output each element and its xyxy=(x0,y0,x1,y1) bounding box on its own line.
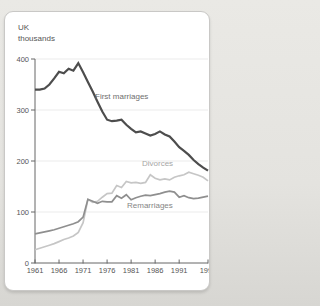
series-label-first-marriages: First marriages xyxy=(95,92,148,101)
x-tick-label: 1971 xyxy=(75,266,92,275)
page: { "page": { "background_top": "#eae9e5",… xyxy=(0,0,223,306)
x-tick-label: 1981 xyxy=(123,266,140,275)
x-tick-label: 1986 xyxy=(147,266,164,275)
y-tick-label: 300 xyxy=(16,106,29,115)
x-tick-label: 1976 xyxy=(99,266,116,275)
y-tick-label: 400 xyxy=(16,55,29,64)
series-label-remarriages: Remarriages xyxy=(127,201,173,210)
series-line-divorces xyxy=(35,172,208,250)
y-tick-label: 200 xyxy=(16,157,29,166)
y-tick-label: 100 xyxy=(16,208,29,217)
line-chart: 0100200300400196119661971197619811986199… xyxy=(5,12,209,290)
series-label-divorces: Divorces xyxy=(142,159,173,168)
x-tick-label: 1966 xyxy=(51,266,68,275)
x-tick-label: 1991 xyxy=(171,266,188,275)
series-line-first-marriages xyxy=(35,63,208,171)
x-tick-label: 1997 xyxy=(200,266,209,275)
x-tick-label: 1961 xyxy=(27,266,44,275)
chart-card: UK thousands 010020030040019611966197119… xyxy=(4,11,210,291)
